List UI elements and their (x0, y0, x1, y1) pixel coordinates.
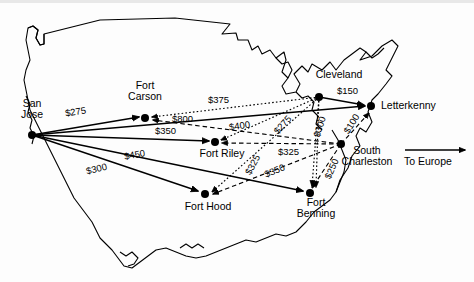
cost-label-south-charleston-fort-carson: $800 (172, 114, 193, 124)
cost-label-cleveland-fort-carson: $375 (208, 95, 229, 105)
node-label-fort-carson: Fort Carson (112, 80, 178, 101)
node-label-cleveland: Cleveland (306, 69, 372, 80)
cost-label-san-jose-fort-riley: $350 (155, 126, 176, 136)
to-europe-label: To Europe (404, 155, 452, 167)
us-map-svg (0, 0, 474, 282)
node-label-fort-riley: Fort Riley (190, 148, 254, 159)
node-label-san-jose: San Jose (6, 98, 58, 119)
cost-label-cleveland-letterkenny: $150 (337, 86, 358, 96)
node-label-fort-hood: Fort Hood (176, 201, 240, 212)
node-label-letterkenny: Letterkenny (381, 100, 461, 111)
node-label-fort-benning: Fort Benning (288, 197, 344, 218)
cost-label-south-charleston-fort-hood: $325 (278, 147, 299, 157)
node-label-south-charleston: South Charleston (330, 145, 404, 166)
map-diagram-page: San Jose Fort Carson Fort Riley Fort Hoo… (0, 0, 474, 282)
